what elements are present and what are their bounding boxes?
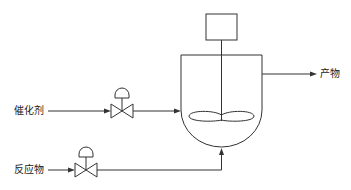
reactant-label: 反应物 bbox=[14, 164, 44, 176]
reactor-diagram bbox=[0, 0, 351, 190]
catalyst-label: 催化剂 bbox=[14, 105, 44, 117]
reactant-control-valve bbox=[75, 147, 97, 177]
arrow-up-icon bbox=[219, 148, 224, 155]
catalyst-control-valve bbox=[111, 88, 133, 118]
motor-box bbox=[206, 14, 237, 40]
arrow-right-icon bbox=[174, 109, 181, 114]
product-label: 产物 bbox=[320, 68, 340, 80]
arrow-right-icon bbox=[310, 72, 317, 77]
arrow-right-icon bbox=[68, 168, 75, 173]
arrow-right-icon bbox=[104, 109, 111, 114]
